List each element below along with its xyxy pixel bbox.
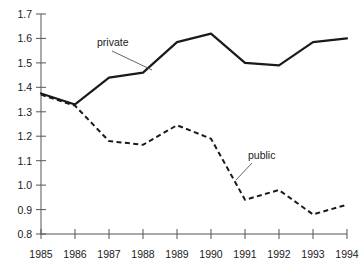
annotation-private: private bbox=[97, 36, 152, 70]
series-label-private: private bbox=[97, 36, 129, 48]
x-axis-tick-labels: 1985 1986 1987 1988 1989 1990 1991 1992 … bbox=[29, 248, 359, 260]
x-tick-label-1988: 1988 bbox=[131, 248, 155, 260]
series-line-private bbox=[41, 34, 347, 105]
chart-canvas: 1.7 1.6 1.5 1.4 1.3 1.2 1.1 1.0 0.9 0.8 bbox=[0, 0, 362, 274]
x-tick-label-1990: 1990 bbox=[199, 248, 223, 260]
y-tick-label-1.0: 1.0 bbox=[17, 179, 32, 191]
leader-line-public bbox=[236, 163, 252, 180]
x-tick-label-1985: 1985 bbox=[29, 248, 53, 260]
series-line-public bbox=[41, 95, 347, 215]
x-tick-label-1991: 1991 bbox=[233, 248, 257, 260]
x-tick-label-1987: 1987 bbox=[97, 248, 121, 260]
y-tick-label-1.4: 1.4 bbox=[17, 81, 32, 93]
x-axis: 1985 1986 1987 1988 1989 1990 1991 1992 … bbox=[29, 229, 359, 260]
y-tick-label-1.1: 1.1 bbox=[17, 155, 32, 167]
x-tick-label-1989: 1989 bbox=[165, 248, 189, 260]
y-tick-label-1.3: 1.3 bbox=[17, 106, 32, 118]
y-tick-label-0.8: 0.8 bbox=[17, 228, 32, 240]
x-tick-label-1994: 1994 bbox=[335, 248, 359, 260]
data-series bbox=[41, 34, 347, 215]
x-tick-label-1986: 1986 bbox=[63, 248, 87, 260]
x-tick-label-1992: 1992 bbox=[267, 248, 291, 260]
leader-line-private bbox=[112, 51, 152, 70]
line-chart: 1.7 1.6 1.5 1.4 1.3 1.2 1.1 1.0 0.9 0.8 bbox=[0, 0, 362, 274]
y-tick-label-1.7: 1.7 bbox=[17, 8, 32, 20]
annotation-public: public bbox=[236, 149, 275, 180]
y-tick-label-1.5: 1.5 bbox=[17, 57, 32, 69]
x-tick-label-1993: 1993 bbox=[301, 248, 325, 260]
y-tick-label-1.6: 1.6 bbox=[17, 32, 32, 44]
y-axis-tick-labels: 1.7 1.6 1.5 1.4 1.3 1.2 1.1 1.0 0.9 0.8 bbox=[17, 8, 32, 240]
y-tick-label-1.2: 1.2 bbox=[17, 130, 32, 142]
series-label-public: public bbox=[248, 149, 275, 161]
y-tick-label-0.9: 0.9 bbox=[17, 204, 32, 216]
y-axis: 1.7 1.6 1.5 1.4 1.3 1.2 1.1 1.0 0.9 0.8 bbox=[17, 8, 46, 240]
